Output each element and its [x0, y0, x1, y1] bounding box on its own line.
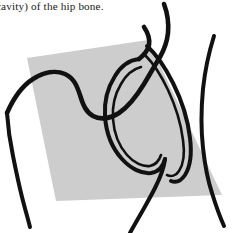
hip-bone-illustration	[0, 0, 239, 233]
figure-container: cavity) of the hip bone.	[0, 0, 239, 233]
ischium-inferior-ramus	[7, 113, 30, 227]
femoral-shaft-outline	[202, 36, 225, 226]
